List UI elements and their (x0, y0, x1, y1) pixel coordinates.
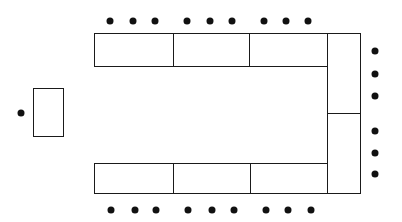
table-right-2 (327, 113, 361, 194)
table-right-1 (327, 33, 361, 114)
table-top-3 (249, 33, 328, 67)
seat-top (184, 18, 191, 25)
seat-right (372, 93, 379, 100)
seat-bottom (108, 207, 115, 214)
seat-top (207, 18, 214, 25)
seat-bottom (308, 207, 315, 214)
seat-top (305, 18, 312, 25)
head-table (33, 88, 64, 137)
table-bottom-1 (94, 163, 174, 194)
seat-top (130, 18, 137, 25)
seat-top (229, 18, 236, 25)
seat-bottom (185, 207, 192, 214)
seat-top (152, 18, 159, 25)
seat-top (107, 18, 114, 25)
table-bottom-2 (173, 163, 251, 194)
seat-bottom (132, 207, 139, 214)
seat-right (372, 128, 379, 135)
seat-right (372, 171, 379, 178)
seat-bottom (231, 207, 238, 214)
seat-bottom (153, 207, 160, 214)
seating-diagram (0, 0, 402, 222)
seat-head (18, 110, 25, 117)
seat-bottom (209, 207, 216, 214)
seat-top (261, 18, 268, 25)
seat-bottom (263, 207, 270, 214)
table-bottom-3 (250, 163, 328, 194)
seat-right (372, 71, 379, 78)
seat-bottom (285, 207, 292, 214)
seat-top (283, 18, 290, 25)
table-top-2 (173, 33, 250, 67)
table-top-1 (94, 33, 174, 67)
seat-right (372, 48, 379, 55)
seat-right (372, 150, 379, 157)
